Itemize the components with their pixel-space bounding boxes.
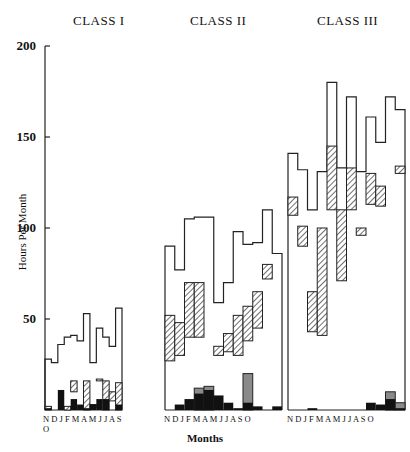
black-segment: [194, 394, 204, 410]
hatched-segment: [185, 283, 195, 338]
hatched-segment: [224, 334, 234, 352]
hatched-segment: [288, 197, 298, 215]
black-segment: [243, 403, 253, 410]
black-segment: [366, 403, 376, 410]
y-axis: [45, 46, 50, 410]
hatched-segment: [175, 323, 185, 356]
hatched-segment: [337, 210, 347, 281]
hatched-segment: [308, 292, 318, 332]
hatched-segment: [64, 406, 70, 410]
hatched-segment: [84, 381, 90, 410]
black-segment: [45, 408, 51, 410]
black-segment: [253, 406, 263, 410]
hatched-segment: [263, 264, 273, 279]
hatched-segment: [109, 392, 115, 401]
black-segment: [214, 395, 224, 410]
black-segment: [96, 399, 102, 410]
hatched-segment: [356, 228, 366, 235]
hatched-segment: [214, 346, 224, 355]
black-segment: [84, 408, 90, 410]
black-segment: [204, 390, 214, 410]
chart-plot-area: [0, 0, 410, 452]
black-segment: [376, 405, 386, 410]
black-segment: [71, 399, 77, 410]
hatched-segment: [376, 186, 386, 206]
black-segment: [308, 408, 318, 410]
hatched-segment: [71, 381, 77, 392]
hatched-segment: [298, 226, 308, 246]
hatched-segment: [327, 146, 337, 210]
panel-class-1: [45, 308, 122, 410]
black-segment: [386, 399, 396, 410]
black-segment: [175, 405, 185, 410]
black-segment: [90, 405, 96, 410]
hatched-segment: [253, 292, 263, 328]
black-segment: [395, 408, 405, 410]
black-segment: [116, 405, 122, 410]
hatched-segment: [194, 283, 204, 338]
total-outline: [165, 210, 282, 410]
black-segment: [77, 405, 83, 410]
hatched-segment: [366, 173, 376, 204]
panel-class-3: [288, 82, 405, 410]
hatched-segment: [317, 228, 327, 335]
hatched-segment: [243, 306, 253, 341]
hatched-segment: [165, 315, 175, 361]
black-segment: [185, 399, 195, 410]
black-segment: [224, 403, 234, 410]
hatched-segment: [395, 166, 405, 173]
hatched-segment: [233, 315, 243, 355]
hatched-segment: [96, 379, 102, 381]
panel-class-2: [165, 210, 282, 410]
hatched-segment: [347, 168, 357, 210]
black-segment: [233, 408, 243, 410]
black-segment: [103, 399, 109, 410]
black-segment: [272, 406, 282, 410]
black-segment: [58, 390, 64, 410]
